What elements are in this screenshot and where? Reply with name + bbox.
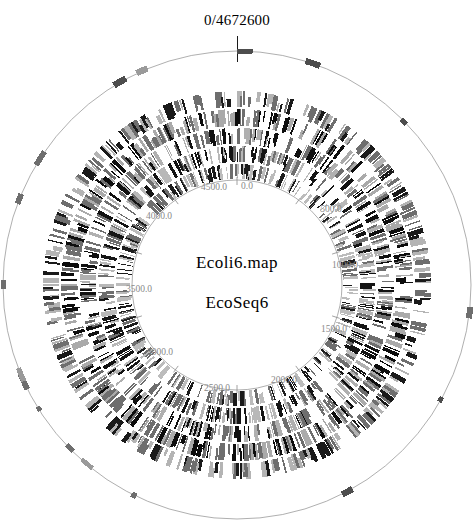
map-name-label: Ecoli6.map: [0, 253, 474, 273]
sequence-name-label: EcoSeq6: [0, 293, 474, 313]
circular-genome-map-figure: 0/4672600 Ecoli6.map EcoSeq6 0.0500.0100…: [0, 0, 474, 527]
scale-label-2000-0: 2000.0: [271, 375, 297, 385]
scale-label-2500-0: 2500.0: [204, 383, 230, 393]
scale-label-500-0: 500.0: [320, 204, 341, 214]
track-band-5: [116, 164, 358, 406]
scale-label-4500-0: 4500.0: [201, 182, 227, 192]
scale-label-1000-0: 1000.0: [332, 260, 358, 270]
scale-label-4000-0: 4000.0: [146, 211, 172, 221]
scale-label-1500-0: 1500.0: [321, 324, 347, 334]
scale-label-0-0: 0.0: [241, 181, 253, 191]
scale-label-3500-0: 3500.0: [126, 284, 152, 294]
scale-ticks: [134, 177, 339, 393]
scale-label-3000-0: 3000.0: [147, 347, 173, 357]
